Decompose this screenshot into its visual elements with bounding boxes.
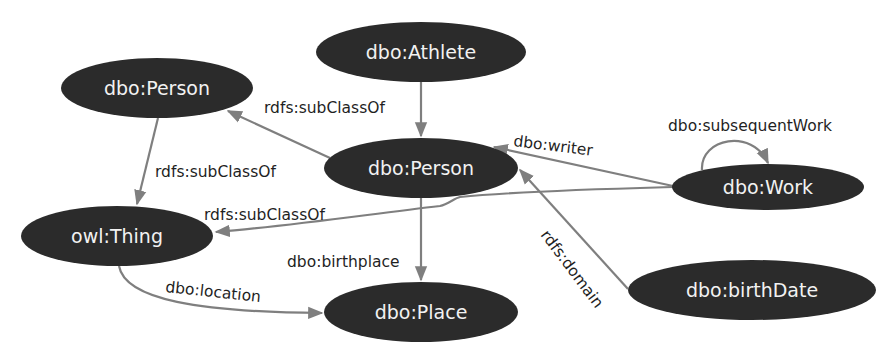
label-work-subclassof-thing: rdfs:subClassOf (204, 206, 325, 224)
label-domain: rdfs:domain (537, 227, 607, 312)
node-person-left[interactable]: dbo:Person (61, 58, 253, 118)
node-person-left-label: dbo:Person (104, 77, 210, 99)
node-athlete[interactable]: dbo:Athlete (316, 22, 526, 82)
node-birthdate-label: dbo:birthDate (686, 279, 818, 301)
label-subsequentwork: dbo:subsequentWork (668, 117, 832, 135)
node-work-label: dbo:Work (723, 176, 813, 198)
node-place[interactable]: dbo:Place (324, 282, 518, 342)
edge-person-subclassof-person (228, 111, 330, 158)
ontology-diagram: rdfs:subClassOf rdfs:subClassOf rdfs:sub… (0, 0, 894, 355)
label-person-subclassof-thing: rdfs:subClassOf (155, 163, 276, 181)
label-writer: dbo:writer (513, 132, 595, 160)
node-person-center-label: dbo:Person (368, 157, 474, 179)
node-work[interactable]: dbo:Work (672, 164, 864, 210)
node-athlete-label: dbo:Athlete (366, 41, 476, 63)
node-thing[interactable]: owl:Thing (21, 206, 213, 266)
edge-person-subclassof-thing (137, 118, 158, 204)
label-athlete-subclassof: rdfs:subClassOf (264, 99, 385, 117)
node-birthdate[interactable]: dbo:birthDate (628, 260, 876, 320)
node-place-label: dbo:Place (375, 301, 468, 323)
node-person-center[interactable]: dbo:Person (324, 138, 518, 198)
node-thing-label: owl:Thing (71, 225, 163, 247)
label-birthplace: dbo:birthplace (287, 253, 400, 271)
